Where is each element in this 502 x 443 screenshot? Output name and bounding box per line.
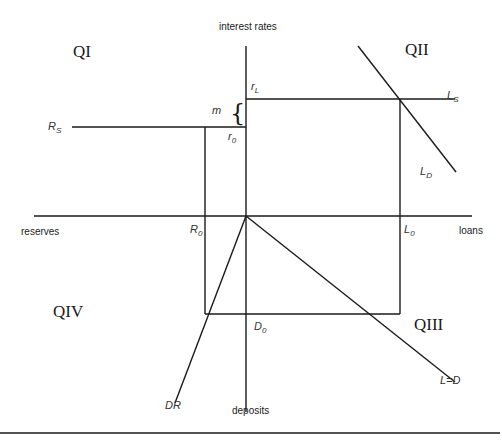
ls-label: LS xyxy=(447,89,459,104)
dr-line xyxy=(175,216,246,403)
R0-label: R0 xyxy=(190,223,203,238)
quadrant-3-label: QIII xyxy=(414,315,444,334)
loans-label: loans xyxy=(459,225,483,236)
r0-label: r0 xyxy=(228,130,237,145)
quadrant-2-label: QII xyxy=(405,40,429,59)
rs-label: RS xyxy=(48,120,62,135)
ld-label: LD xyxy=(420,165,432,180)
rl-label: rL xyxy=(251,80,259,95)
L0-label: L0 xyxy=(404,223,415,238)
l-equals-d-line xyxy=(246,216,455,382)
loan-demand-line xyxy=(358,46,456,172)
D0-label: D0 xyxy=(254,320,267,335)
margin-m-label: m xyxy=(212,104,221,116)
reserves-label: reserves xyxy=(21,226,59,237)
quadrant-4-label: QIV xyxy=(53,302,84,321)
quadrant-1-label: QI xyxy=(73,42,91,61)
l-equals-d-label: L=D xyxy=(440,374,461,386)
margin-brace: { xyxy=(230,99,245,127)
dr-label: DR xyxy=(165,399,181,411)
four-quadrant-bank-diagram: interest rates deposits reserves loans Q… xyxy=(0,0,502,443)
deposits-label: deposits xyxy=(232,405,269,416)
interest-rates-label: interest rates xyxy=(219,21,277,32)
